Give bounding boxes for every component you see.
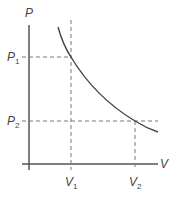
v2-label: V2 — [129, 175, 142, 191]
p1-label: P1 — [7, 50, 20, 66]
y-axis-label: P — [25, 6, 33, 20]
pv-curve — [58, 27, 158, 132]
v1-label: V1 — [65, 175, 78, 191]
x-axis-label: V — [160, 157, 169, 171]
p2-label: P2 — [7, 114, 20, 130]
pv-diagram: P V P1 P2 V1 V2 — [0, 0, 175, 199]
